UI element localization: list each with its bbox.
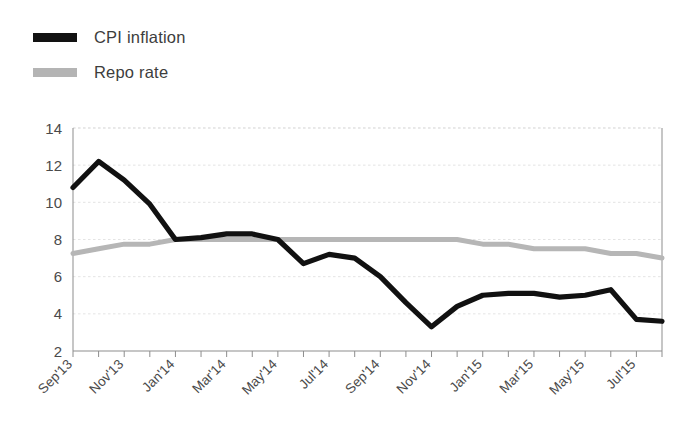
x-axis-tick-label: Jan'14	[139, 356, 178, 395]
x-axis-tick-label: May'14	[239, 356, 280, 397]
y-axis-tick-label: 8	[54, 231, 62, 248]
y-axis-tick-label: 12	[45, 157, 62, 174]
chart-figure: CPI inflation Repo rate 1412108642 Sep'1…	[0, 0, 696, 429]
y-axis-tick-label: 6	[54, 268, 62, 285]
x-axis-tick-label: Nov'13	[86, 357, 126, 397]
y-axis-tick-label: 4	[54, 305, 62, 322]
x-axis-tick-label: Sep'13	[35, 357, 75, 397]
chart-plot-area: 1412108642 Sep'13Nov'13Jan'14Mar'14May'1…	[0, 0, 696, 429]
y-axis-tick-label: 2	[54, 343, 62, 360]
x-axis-tick-label: Jan'15	[446, 357, 484, 395]
y-axis-tick-label: 14	[45, 120, 62, 137]
x-axis-tick-label: May'15	[546, 357, 587, 398]
x-axis-tick-label: Mar'15	[497, 357, 536, 396]
x-axis-tick-labels: Sep'13Nov'13Jan'14Mar'14May'14Jul'14Sep'…	[35, 356, 638, 397]
series-line-repo-rate	[73, 240, 662, 259]
x-axis-tick-label: Jul'14	[296, 356, 332, 392]
x-axis-tick-label: Jul'15	[603, 357, 638, 392]
x-axis-tick-label: Sep'14	[342, 356, 382, 396]
x-axis-tick-label: Mar'14	[189, 356, 229, 396]
x-axis-tick-marks	[73, 351, 662, 357]
y-axis-tick-labels: 1412108642	[45, 120, 62, 360]
line-chart-svg: 1412108642 Sep'13Nov'13Jan'14Mar'14May'1…	[0, 0, 696, 429]
y-axis-tick-label: 10	[45, 194, 62, 211]
x-axis-tick-label: Nov'14	[394, 356, 434, 396]
